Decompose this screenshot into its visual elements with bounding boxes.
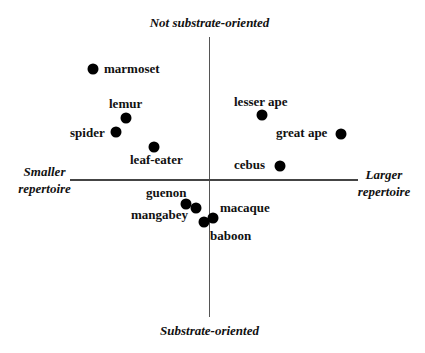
data-point-lemur <box>121 113 132 124</box>
point-label-lemur: lemur <box>109 96 142 111</box>
axis-label-right: Larger repertoire <box>348 166 420 200</box>
point-label-spider: spider <box>70 125 105 140</box>
axis-label-right-line1: Larger <box>348 166 420 183</box>
axis-label-top-text: Not substrate-oriented <box>150 15 270 30</box>
data-point-mangabey <box>191 203 202 214</box>
axis-label-top: Not substrate-oriented <box>0 14 425 31</box>
data-point-leaf-eater <box>149 142 160 153</box>
axis-label-left-line1: Smaller <box>8 163 81 180</box>
point-label-macaque: macaque <box>220 200 270 215</box>
axis-label-right-line2: repertoire <box>348 183 420 200</box>
point-label-marmoset: marmoset <box>104 61 160 76</box>
axis-label-left: Smaller repertoire <box>8 163 81 197</box>
vertical-axis-line <box>209 37 210 317</box>
axis-label-left-line2: repertoire <box>8 180 81 197</box>
point-label-cebus: cebus <box>234 157 265 172</box>
data-point-spider <box>111 127 122 138</box>
axis-label-bottom: Substrate-oriented <box>0 322 425 339</box>
data-point-baboon <box>199 217 210 228</box>
data-point-great-ape <box>336 129 347 140</box>
point-label-guenon: guenon <box>146 185 186 200</box>
horizontal-axis-line <box>70 179 358 181</box>
point-label-great-ape: great ape <box>276 125 327 140</box>
point-label-mangabey: mangabey <box>131 207 188 222</box>
point-label-lesser-ape: lesser ape <box>234 94 288 109</box>
data-point-lesser-ape <box>257 110 268 121</box>
data-point-cebus <box>275 161 286 172</box>
point-label-leaf-eater: leaf-eater <box>130 152 183 167</box>
data-point-marmoset <box>88 64 99 75</box>
point-label-baboon: baboon <box>210 228 251 243</box>
axis-label-bottom-text: Substrate-oriented <box>160 323 259 338</box>
